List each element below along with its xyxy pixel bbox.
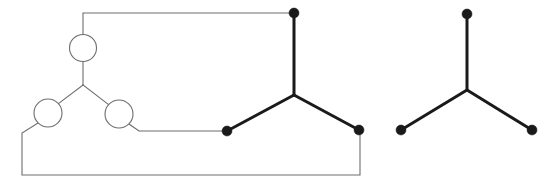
top-circle xyxy=(70,35,97,62)
right-edge-bottom-right xyxy=(467,90,532,130)
right-bottom-right-vertex xyxy=(527,125,537,135)
middle-edge-bottom-left xyxy=(227,95,294,131)
left-graph xyxy=(22,13,360,175)
right-top-vertex xyxy=(462,9,472,19)
right-graph xyxy=(396,9,537,135)
lower-right-circle-to-bottom-left-dot-path xyxy=(129,124,227,131)
middle-edge-bottom-right xyxy=(294,95,359,130)
middle-bottom-right-vertex xyxy=(354,125,364,135)
middle-bottom-left-vertex xyxy=(222,126,232,136)
top-circle-to-top-rail-path xyxy=(83,13,294,35)
lower-right-circle xyxy=(105,100,133,128)
diagram-svg xyxy=(0,0,555,187)
lower-left-circle xyxy=(34,99,62,127)
middle-graph xyxy=(222,8,364,136)
right-bottom-left-vertex xyxy=(396,125,406,135)
junction-to-lower-right-circle-path xyxy=(83,85,109,105)
figure-canvas xyxy=(0,0,555,187)
junction-to-lower-left-circle-path xyxy=(59,85,84,104)
middle-top-vertex xyxy=(289,8,299,18)
right-edge-bottom-left xyxy=(401,90,467,130)
